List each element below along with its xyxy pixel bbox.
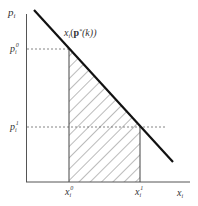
y-axis-label: pi (7, 6, 16, 20)
p0-label: pi0 (9, 42, 19, 55)
p1-label: pi1 (9, 120, 19, 133)
curve-label: xi(p*(k)) (63, 27, 97, 39)
demand-diagram: pi xi(p*(k)) pi0 pi1 xi0 xi1 xi (0, 0, 198, 206)
x0-label: xi0 (64, 185, 73, 198)
hatched-region (60, 40, 150, 190)
x-axis-label: xi (176, 187, 183, 199)
x1-label: xi1 (134, 185, 143, 198)
